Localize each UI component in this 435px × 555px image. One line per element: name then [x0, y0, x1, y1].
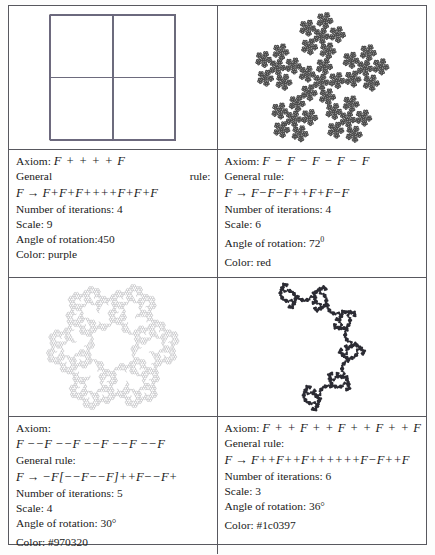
- panel-2-iterations: Number of iterations: 4: [225, 202, 421, 217]
- panel-3-rule: F→−F[−−F−−F]++F−−F+: [16, 469, 211, 486]
- panel-1-parameters: Axiom:F + + + + F Generalrule: F→F+F+F++…: [9, 150, 218, 277]
- axiom-value: F − F − F − F − F: [262, 154, 370, 168]
- panel-1-rule: F→F+F+F++++F+F+F: [16, 185, 211, 202]
- panel-4-parameters: Axiom:F + + F + + F + + F + + F General …: [218, 417, 427, 554]
- table-row-images-2: [9, 277, 426, 416]
- panel-1-color: Color: purple: [16, 247, 211, 262]
- panel-3-axiom-label: Axiom:: [16, 421, 211, 436]
- axiom-label: Axiom:: [225, 422, 260, 434]
- panel-2-scale: Scale: 6: [225, 217, 421, 232]
- rule-lhs: F: [16, 186, 24, 200]
- panel-4-iterations: Number of iterations: 6: [225, 469, 421, 484]
- axiom-value: F + + + + F: [54, 154, 126, 168]
- angle-text: Angle of rotation: 72: [225, 237, 321, 249]
- panel-4-color: Color: #1c0397: [225, 518, 421, 533]
- panel-4-rule: F→F++F++F++++++F−F++F: [225, 452, 421, 469]
- rule-arrow: →: [24, 186, 43, 200]
- fractal-image-panel-3: [9, 278, 218, 416]
- panel-1-rule-label-line: Generalrule:: [16, 169, 211, 184]
- panel-3-iterations: Number of iterations: 5: [16, 486, 211, 501]
- rule-arrow: →: [24, 470, 43, 484]
- panel-3-angle: Angle of rotation: 30°: [16, 516, 211, 531]
- panel-3-rule-label: General rule:: [16, 453, 211, 468]
- panel-1-angle: Angle of rotation:450: [16, 232, 211, 247]
- rule-rhs: −F[−−F−−F]++F−−F+: [43, 470, 178, 484]
- panel-3-scale: Scale: 4: [16, 501, 211, 516]
- rule-lhs: F: [16, 470, 24, 484]
- fractal-image-panel-4: [218, 278, 427, 416]
- panel-2-rule: F→F−F−F++F+F−F: [225, 185, 421, 202]
- panel-2-rule-label: General rule:: [225, 169, 421, 184]
- fractal-pentagonal-dense: [218, 278, 427, 416]
- general-label: General: [16, 169, 52, 184]
- rule-rhs: F++F++F++++++F−F++F: [251, 453, 410, 467]
- angle-degree-sup: 0: [320, 235, 324, 244]
- panel-4-rule-label: General rule:: [225, 436, 421, 451]
- panel-2-axiom-line: Axiom:F − F − F − F − F: [225, 154, 421, 169]
- rule-arrow: →: [232, 453, 251, 467]
- panel-2-parameters: Axiom:F − F − F − F − F General rule: F→…: [218, 150, 427, 277]
- fractal-image-panel-1: [9, 6, 218, 149]
- panel-3-parameters: Axiom: F −−F −−F −−F −−F −−F General rul…: [9, 417, 218, 554]
- rule-rhs: F−F−F++F+F−F: [251, 186, 349, 200]
- axiom-label: Axiom:: [225, 155, 260, 167]
- panel-3-axiom-value: F −−F −−F −−F −−F −−F: [16, 436, 211, 453]
- panel-1-axiom-line: Axiom:F + + + + F: [16, 154, 211, 169]
- fractal-image-panel-2: [218, 6, 427, 149]
- panel-1-scale: Scale: 9: [16, 217, 211, 232]
- panel-4-scale: Scale: 3: [225, 484, 421, 499]
- fractal-pentaflake: [218, 6, 427, 149]
- panel-1-iterations: Number of iterations: 4: [16, 202, 211, 217]
- table-row-text-2: Axiom: F −−F −−F −−F −−F −−F General rul…: [9, 416, 426, 554]
- axiom-value: F + + F + + F + + F + + F: [262, 421, 421, 435]
- rule-rhs: F+F+F++++F+F+F: [43, 186, 159, 200]
- panel-4-angle: Angle of rotation: 36°: [225, 499, 421, 514]
- panel-2-angle: Angle of rotation: 720: [225, 232, 421, 251]
- panel-4-axiom-line: Axiom:F + + F + + F + + F + + F: [225, 421, 421, 436]
- table-row-images-1: [9, 6, 426, 149]
- fractal-hex-ring-lace: [9, 278, 217, 416]
- rule-arrow: →: [232, 186, 251, 200]
- panel-3-color: Color: #970320: [16, 535, 211, 550]
- axiom-label: Axiom:: [16, 155, 51, 167]
- panel-2-color: Color: red: [225, 255, 421, 270]
- rule-label: rule:: [190, 169, 211, 184]
- document-page: Axiom:F + + + + F Generalrule: F→F+F+F++…: [0, 0, 435, 555]
- fractal-cross-4fold: [9, 6, 217, 149]
- table-row-text-1: Axiom:F + + + + F Generalrule: F→F+F+F++…: [9, 149, 426, 277]
- fractal-parameter-table: Axiom:F + + + + F Generalrule: F→F+F+F++…: [8, 5, 427, 545]
